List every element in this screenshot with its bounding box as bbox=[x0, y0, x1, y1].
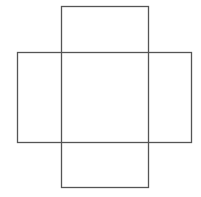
vertical-rectangle bbox=[62, 7, 149, 188]
horizontal-rectangle bbox=[18, 53, 192, 143]
cross-net-diagram bbox=[0, 0, 201, 197]
